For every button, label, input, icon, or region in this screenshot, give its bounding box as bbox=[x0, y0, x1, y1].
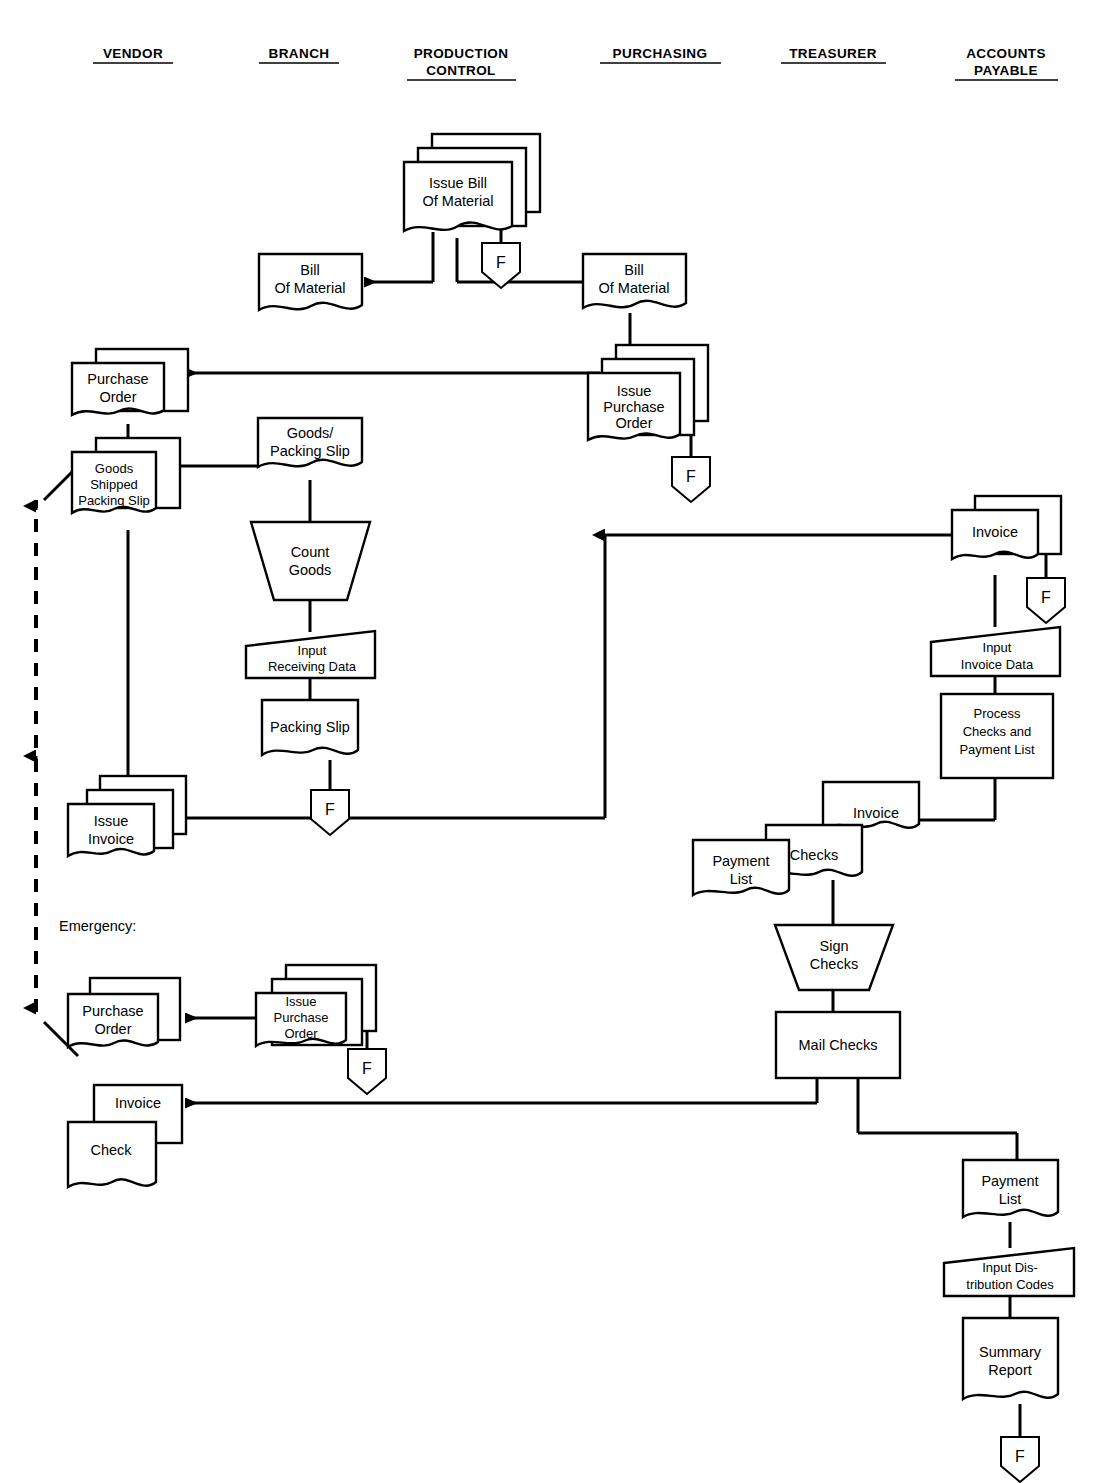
node-label-line2: Checks bbox=[810, 956, 858, 972]
emergency-label: Emergency: bbox=[59, 918, 136, 934]
node-goods-packing-slip[interactable]: Goods/ Packing Slip bbox=[258, 418, 362, 467]
file-symbol-invoice-accounts-payable[interactable]: F bbox=[1027, 578, 1065, 623]
file-symbol-issue-purchase-order-emergency[interactable]: F bbox=[348, 1049, 386, 1094]
node-issue-invoice[interactable]: Issue Invoice bbox=[68, 776, 186, 856]
node-label-line2: Checks and bbox=[963, 724, 1032, 739]
node-label-line2: List bbox=[730, 871, 753, 887]
node-invoice-treasurer[interactable]: Invoice bbox=[823, 782, 919, 829]
flowchart-page: VENDOR BRANCH PRODUCTION CONTROL PURCHAS… bbox=[0, 0, 1100, 1483]
node-process-checks-and-payment-list[interactable]: Process Checks and Payment List bbox=[941, 694, 1053, 778]
node-summary-report[interactable]: Summary Report bbox=[963, 1318, 1058, 1399]
node-label-line1: Bill bbox=[624, 262, 643, 278]
column-header-branch: BRANCH bbox=[269, 46, 330, 61]
node-label-line1: Invoice bbox=[853, 805, 899, 821]
node-label-line1: Goods/ bbox=[287, 425, 335, 441]
node-label-line1: Payment bbox=[981, 1173, 1038, 1189]
node-label-line1: Sign bbox=[819, 938, 848, 954]
file-label: F bbox=[496, 254, 506, 271]
node-label-line1: Issue bbox=[94, 813, 129, 829]
node-label-line2: Order bbox=[99, 389, 136, 405]
node-label-line1: Invoice bbox=[972, 524, 1018, 540]
node-label-line2: Report bbox=[988, 1362, 1032, 1378]
node-label-line1: Issue bbox=[285, 994, 316, 1009]
node-label-line2: Invoice Data bbox=[961, 657, 1034, 672]
node-count-goods[interactable]: Count Goods bbox=[251, 522, 370, 600]
column-header-treasurer: TREASURER bbox=[789, 46, 877, 61]
node-label-line1: Count bbox=[291, 544, 330, 560]
node-label-line2: Goods bbox=[289, 562, 332, 578]
node-mail-checks[interactable]: Mail Checks bbox=[776, 1012, 900, 1078]
node-label-line1: Packing Slip bbox=[270, 719, 350, 735]
node-label-line1: Purchase bbox=[87, 371, 148, 387]
node-label-line1: Check bbox=[90, 1142, 132, 1158]
column-header-accounts-payable-line2: PAYABLE bbox=[974, 63, 1038, 78]
node-input-invoice-data[interactable]: Input Invoice Data bbox=[931, 627, 1060, 676]
node-check-vendor-bottom[interactable]: Check bbox=[68, 1122, 156, 1187]
column-header-production-control-line2: CONTROL bbox=[426, 63, 496, 78]
node-purchase-order-vendor[interactable]: Purchase Order bbox=[72, 349, 188, 415]
node-issue-purchase-order-purchasing[interactable]: Issue Purchase Order bbox=[588, 345, 708, 440]
node-label-line3: Order bbox=[284, 1026, 318, 1041]
file-label: F bbox=[325, 801, 335, 818]
node-label-line1: Input bbox=[298, 643, 327, 658]
flowchart-canvas: VENDOR BRANCH PRODUCTION CONTROL PURCHAS… bbox=[0, 0, 1100, 1483]
node-label-line2: Purchase bbox=[274, 1010, 329, 1025]
file-symbol-summary-report[interactable]: F bbox=[1001, 1437, 1039, 1482]
node-sign-checks[interactable]: Sign Checks bbox=[775, 925, 893, 990]
node-label-line1: Input bbox=[983, 640, 1012, 655]
node-label-line1: Invoice bbox=[115, 1095, 161, 1111]
node-label-line2: Of Material bbox=[275, 280, 346, 296]
node-label-line1: Purchase bbox=[82, 1003, 143, 1019]
file-symbol-issue-purchase-order[interactable]: F bbox=[672, 457, 710, 502]
node-label-line3: Order bbox=[615, 415, 652, 431]
node-label-line1: Summary bbox=[979, 1344, 1042, 1360]
node-label-line1: Issue Bill bbox=[429, 175, 487, 191]
node-bill-of-material-purchasing[interactable]: Bill Of Material bbox=[583, 254, 686, 308]
node-label-line1: Checks bbox=[790, 847, 838, 863]
manual-operation-shape bbox=[251, 522, 370, 600]
node-purchase-order-emergency[interactable]: Purchase Order bbox=[68, 978, 180, 1047]
file-label: F bbox=[1041, 589, 1051, 606]
column-headers: VENDOR BRANCH PRODUCTION CONTROL PURCHAS… bbox=[93, 46, 1058, 80]
node-goods-shipped-packing-slip[interactable]: Goods Shipped Packing Slip bbox=[72, 438, 180, 513]
file-label: F bbox=[1015, 1448, 1025, 1465]
node-label-line2: Shipped bbox=[90, 477, 138, 492]
node-label-line1: Mail Checks bbox=[799, 1037, 878, 1053]
node-label-line1: Bill bbox=[300, 262, 319, 278]
column-header-production-control: PRODUCTION bbox=[414, 46, 509, 61]
node-label-line1: Payment bbox=[712, 853, 769, 869]
node-issue-purchase-order-emergency[interactable]: Issue Purchase Order bbox=[256, 965, 376, 1046]
file-symbol-packing-slip[interactable]: F bbox=[311, 790, 349, 835]
node-label-line2: Invoice bbox=[88, 831, 134, 847]
node-label-line1: Issue bbox=[617, 383, 652, 399]
node-label-line3: Packing Slip bbox=[78, 493, 150, 508]
node-bill-of-material-branch[interactable]: Bill Of Material bbox=[259, 254, 362, 310]
column-header-purchasing: PURCHASING bbox=[613, 46, 708, 61]
node-input-distribution-codes[interactable]: Input Dis- tribution Codes bbox=[944, 1248, 1074, 1296]
node-label-line3: Payment List bbox=[959, 742, 1035, 757]
file-label: F bbox=[362, 1060, 372, 1077]
node-label-line2: List bbox=[999, 1191, 1022, 1207]
node-input-receiving-data[interactable]: Input Receiving Data bbox=[246, 631, 375, 678]
node-label-line2: tribution Codes bbox=[966, 1277, 1054, 1292]
column-header-vendor: VENDOR bbox=[103, 46, 163, 61]
node-payment-list-accounts-payable[interactable]: Payment List bbox=[963, 1160, 1058, 1217]
node-label-line1: Goods bbox=[95, 461, 134, 476]
node-label-line2: Order bbox=[94, 1021, 131, 1037]
document-front bbox=[68, 804, 154, 856]
node-label-line1: Process bbox=[974, 706, 1021, 721]
node-label-line2: Purchase bbox=[603, 399, 664, 415]
node-label-line2: Of Material bbox=[423, 193, 494, 209]
file-label: F bbox=[686, 468, 696, 485]
node-label-line2: Of Material bbox=[599, 280, 670, 296]
node-label-line2: Packing Slip bbox=[270, 443, 350, 459]
node-label-line2: Receiving Data bbox=[268, 659, 357, 674]
node-packing-slip[interactable]: Packing Slip bbox=[262, 700, 358, 755]
node-issue-bill-of-material[interactable]: Issue Bill Of Material bbox=[404, 134, 540, 231]
node-label-line1: Input Dis- bbox=[982, 1260, 1038, 1275]
column-header-accounts-payable: ACCOUNTS bbox=[966, 46, 1046, 61]
node-invoice-accounts-payable[interactable]: Invoice bbox=[952, 496, 1061, 559]
node-payment-list-treasurer[interactable]: Payment List bbox=[693, 840, 789, 895]
